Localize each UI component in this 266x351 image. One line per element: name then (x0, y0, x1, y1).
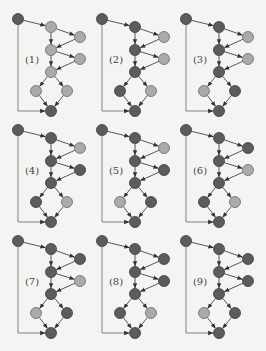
graph-panel: (4) (13, 125, 86, 228)
node-a-dark (97, 14, 108, 25)
edge-arrow (56, 261, 75, 269)
node-e-light (243, 54, 254, 65)
node-b-dark (130, 244, 141, 255)
edge-arrow (40, 76, 48, 86)
node-d-dark (130, 267, 141, 278)
panel-label: (1) (25, 54, 39, 65)
node-g-light (115, 197, 126, 208)
node-i-dark (130, 106, 141, 117)
edge-arrow (39, 206, 47, 217)
edge-arrow (140, 274, 158, 280)
edge-arrow (139, 317, 148, 328)
edge-arrow (55, 187, 64, 197)
edge-arrow (40, 298, 48, 308)
node-i-dark (214, 328, 225, 339)
graph-panel: (2) (97, 14, 170, 117)
edge-arrow (224, 274, 242, 280)
node-e-light (159, 54, 170, 65)
edge-arrow (140, 61, 159, 69)
node-a-dark (13, 125, 24, 136)
graph-panel: (5) (97, 125, 170, 228)
edge-arrow (224, 251, 242, 257)
node-i-dark (214, 106, 225, 117)
edge-arrow (224, 172, 243, 180)
edge-arrow (139, 187, 148, 197)
edge-arrow (191, 20, 213, 25)
edge-arrow (208, 298, 216, 308)
node-c-light (75, 143, 86, 154)
edge-arrow (56, 140, 74, 146)
edge-arrow (223, 298, 232, 308)
panel-label: (4) (25, 165, 39, 176)
node-h-light (62, 86, 73, 97)
edge-arrow (39, 95, 47, 106)
edge-arrow (207, 206, 215, 217)
node-f-dark (46, 289, 57, 300)
node-i-dark (46, 106, 57, 117)
graph-panel: (6) (181, 125, 254, 228)
edge-arrow (56, 163, 74, 169)
edge-arrow (107, 20, 129, 25)
node-g-light (31, 86, 42, 97)
edge-arrow (224, 261, 243, 269)
node-c-dark (75, 254, 86, 265)
node-i-dark (130, 328, 141, 339)
edge-arrow (207, 95, 215, 106)
edge-arrow (139, 206, 148, 217)
edge-arrow (140, 29, 158, 35)
edge-arrow (140, 140, 158, 146)
node-b-dark (46, 244, 57, 255)
node-h-dark (230, 308, 241, 319)
node-d-light (46, 45, 57, 56)
edge-arrow (224, 150, 243, 158)
edge-arrow (40, 187, 48, 197)
edge-arrow (55, 95, 64, 106)
panel-label: (8) (109, 276, 123, 287)
edge-arrow (23, 131, 45, 136)
node-f-light (46, 67, 57, 78)
node-d-dark (46, 267, 57, 278)
edge-arrow (191, 242, 213, 247)
edge-arrow (55, 206, 64, 217)
edge-arrow (107, 131, 129, 136)
edge-arrow (224, 52, 242, 58)
panel-label: (2) (109, 54, 123, 65)
edge-arrow (124, 298, 132, 308)
panel-label: (5) (109, 165, 123, 176)
edge-arrow (56, 61, 75, 69)
node-d-dark (214, 156, 225, 167)
edge-arrow (207, 317, 215, 328)
graph-panel: (1) (13, 14, 86, 117)
edge-arrow (224, 39, 243, 47)
node-h-light (146, 308, 157, 319)
node-b-dark (130, 133, 141, 144)
node-c-light (75, 32, 86, 43)
graph-panel: (3) (181, 14, 254, 117)
node-a-dark (181, 14, 192, 25)
edge-arrow (223, 76, 232, 86)
edge-arrow (56, 150, 75, 158)
node-h-dark (146, 197, 157, 208)
node-e-dark (75, 165, 86, 176)
node-g-light (199, 308, 210, 319)
edge-arrow (55, 317, 64, 328)
edge-arrow (56, 274, 74, 280)
node-e-dark (159, 276, 170, 287)
edge-arrow (191, 131, 213, 136)
node-g-light (31, 308, 42, 319)
node-h-light (230, 197, 241, 208)
node-f-dark (130, 67, 141, 78)
node-e-dark (159, 165, 170, 176)
edge-arrow (224, 61, 243, 69)
node-c-dark (243, 254, 254, 265)
node-h-light (62, 197, 73, 208)
node-e-light (75, 276, 86, 287)
edge-arrow (123, 206, 131, 217)
panel-label: (6) (193, 165, 207, 176)
node-d-dark (130, 156, 141, 167)
node-f-dark (46, 178, 57, 189)
node-d-dark (214, 267, 225, 278)
node-a-dark (13, 236, 24, 247)
edge-arrow (223, 317, 232, 328)
edge-arrow (140, 172, 159, 180)
